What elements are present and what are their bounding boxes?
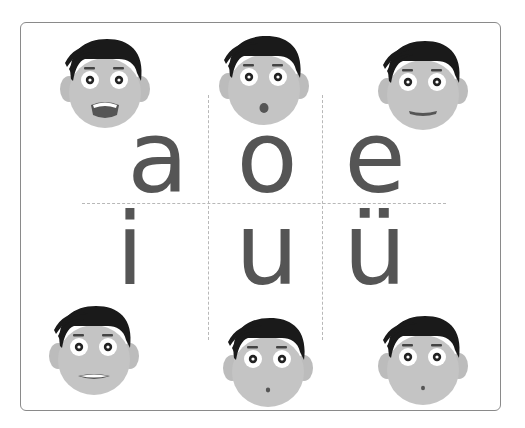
face-e-flat-smile-icon <box>373 35 473 135</box>
vowel-letter-i: i <box>75 200 185 300</box>
face-i-teeth-mouth-icon <box>44 300 144 400</box>
face-o-round-mouth-icon <box>214 30 314 130</box>
vowel-letter-u-umlaut: ü <box>320 200 430 300</box>
face-u-umlaut-tiny-round-mouth-icon <box>373 310 473 410</box>
face-u-tiny-round-mouth-icon <box>218 312 318 412</box>
face-a-wide-open-mouth-icon <box>55 33 155 133</box>
vowel-letter-u: u <box>212 200 322 300</box>
